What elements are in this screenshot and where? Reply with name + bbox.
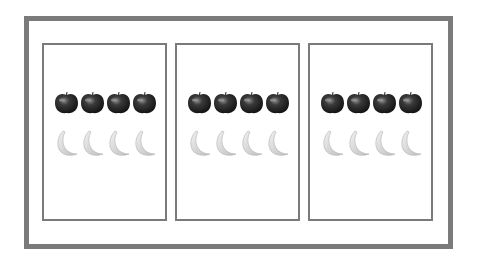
banana-icon <box>213 129 238 157</box>
banana-icon <box>54 129 79 157</box>
apple-icon <box>106 91 131 115</box>
apple-icon <box>372 91 397 115</box>
banana-icon <box>320 129 345 157</box>
outer-frame <box>24 16 453 249</box>
group-panel-1 <box>42 43 167 221</box>
banana-icon <box>132 129 157 157</box>
group-panel-2 <box>175 43 300 221</box>
apple-row <box>320 91 423 115</box>
apple-icon <box>239 91 264 115</box>
banana-icon <box>80 129 105 157</box>
apple-icon <box>398 91 423 115</box>
apple-icon <box>187 91 212 115</box>
apple-icon <box>80 91 105 115</box>
banana-icon <box>372 129 397 157</box>
apple-icon <box>54 91 79 115</box>
banana-icon <box>187 129 212 157</box>
banana-row <box>187 129 290 157</box>
apple-icon <box>320 91 345 115</box>
apple-icon <box>265 91 290 115</box>
banana-icon <box>106 129 131 157</box>
banana-icon <box>398 129 423 157</box>
apple-icon <box>346 91 371 115</box>
banana-icon <box>265 129 290 157</box>
banana-icon <box>346 129 371 157</box>
banana-icon <box>239 129 264 157</box>
apple-row <box>54 91 157 115</box>
banana-row <box>54 129 157 157</box>
apple-icon <box>132 91 157 115</box>
group-panel-3 <box>308 43 433 221</box>
apple-icon <box>213 91 238 115</box>
banana-row <box>320 129 423 157</box>
apple-row <box>187 91 290 115</box>
